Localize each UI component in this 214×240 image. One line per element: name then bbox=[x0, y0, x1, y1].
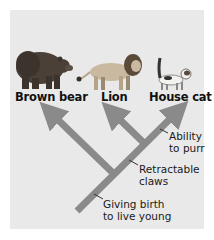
trait-birth-line1: Giving birth bbox=[103, 198, 171, 210]
taxon-label-lion: Lion bbox=[101, 90, 128, 104]
lion-icon bbox=[77, 54, 143, 90]
trait-birth-line2: to live young bbox=[103, 210, 171, 222]
trait-claws-line2: claws bbox=[139, 175, 200, 187]
bear-branch bbox=[52, 114, 114, 174]
house-cat-icon bbox=[159, 58, 191, 90]
trait-giving-birth: Giving birth to live young bbox=[103, 198, 171, 222]
taxon-label-brown-bear: Brown bear bbox=[15, 90, 88, 104]
trait-ability-to-purr: Ability to purr bbox=[169, 130, 205, 154]
trait-purr-line1: Ability bbox=[169, 130, 205, 142]
trait-retractable-claws: Retractable claws bbox=[139, 163, 200, 187]
taxon-label-house-cat: House cat bbox=[149, 90, 212, 104]
brown-bear-icon bbox=[16, 51, 73, 89]
lion-branch bbox=[114, 114, 145, 144]
trait-claws-line1: Retractable bbox=[139, 163, 200, 175]
trait-purr-line2: to purr bbox=[169, 142, 205, 154]
